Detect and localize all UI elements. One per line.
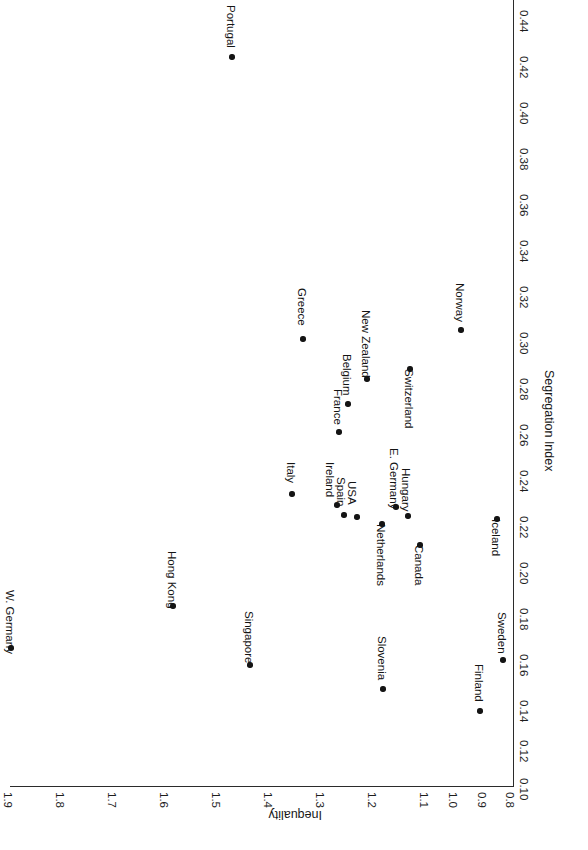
segregation-tick-11: 0.22 (518, 516, 530, 538)
data-point (229, 54, 234, 59)
segregation-tick-17: 0.10 (518, 778, 530, 800)
inequality-tick-7: 1.2 (366, 792, 378, 808)
data-point (289, 491, 294, 496)
data-point-label: Iceland (490, 519, 502, 556)
data-point-label: Singapore (243, 611, 255, 663)
data-point (458, 327, 463, 332)
segregation-tick-3: 0.38 (518, 148, 530, 170)
inequality-tick-0: 1.9 (2, 792, 14, 808)
data-point (300, 336, 305, 341)
segregation-tick-7: 0.30 (518, 332, 530, 354)
data-point-label: Finland (473, 664, 485, 702)
segregation-axis-title: Segregation Index (542, 370, 556, 471)
data-point-label: Hong Kong (166, 551, 178, 609)
inequality-tick-2: 1.7 (106, 792, 118, 808)
data-point-label: Sweden (496, 612, 508, 654)
data-point-label: Italy (285, 462, 297, 483)
data-point-label: Switzerland (403, 369, 415, 428)
data-point-label: Hungary (400, 468, 412, 511)
data-point (380, 686, 385, 691)
inequality-tick-3: 1.6 (158, 792, 170, 808)
inequality-axis-line (10, 786, 514, 787)
data-point (354, 514, 359, 519)
data-point-label: Netherlands (375, 524, 387, 586)
scatter-plot-figure: 1.91.81.71.61.51.41.31.21.11.00.90.8 0.4… (0, 0, 588, 850)
segregation-tick-8: 0.28 (518, 378, 530, 400)
segregation-tick-2: 0.40 (518, 102, 530, 124)
data-point-label: Portugal (225, 5, 237, 48)
inequality-tick-10: 0.9 (476, 792, 488, 808)
segregation-tick-16: 0.12 (518, 740, 530, 762)
inequality-tick-4: 1.5 (210, 792, 222, 808)
data-point (341, 512, 346, 517)
data-point-label: Slovenia (376, 636, 388, 680)
data-point-label: W. Germany (4, 590, 16, 654)
data-point (345, 401, 350, 406)
segregation-tick-12: 0.20 (518, 562, 530, 584)
data-point-label: E. Germany (388, 448, 400, 509)
segregation-tick-14: 0.16 (518, 654, 530, 676)
data-point-label: USA (346, 481, 358, 505)
inequality-tick-5: 1.4 (262, 792, 274, 808)
segregation-tick-9: 0.26 (518, 424, 530, 446)
segregation-tick-0: 0.44 (518, 10, 530, 32)
inequality-tick-8: 1.1 (418, 792, 430, 808)
inequality-tick-6: 1.3 (314, 792, 326, 808)
segregation-tick-6: 0.32 (518, 286, 530, 308)
segregation-tick-13: 0.18 (518, 608, 530, 630)
segregation-tick-15: 0.14 (518, 700, 530, 722)
inequality-tick-11: 0.8 (504, 792, 516, 808)
data-point (500, 657, 505, 662)
data-point (336, 429, 341, 434)
inequality-axis-title: Inequality (268, 808, 322, 822)
data-point (477, 708, 482, 713)
segregation-tick-5: 0.34 (518, 240, 530, 262)
segregation-tick-1: 0.42 (518, 56, 530, 78)
segregation-tick-10: 0.24 (518, 470, 530, 492)
data-point-label: France (332, 389, 344, 425)
data-point-label: Canada (413, 545, 425, 585)
data-point (405, 513, 410, 518)
segregation-axis-line (513, 0, 514, 787)
data-point-label: New Zealand (360, 310, 372, 378)
inequality-tick-9: 1.0 (447, 792, 459, 808)
inequality-tick-1: 1.8 (54, 792, 66, 808)
segregation-tick-4: 0.36 (518, 194, 530, 216)
data-point-label: Greece (296, 288, 308, 326)
data-point-label: Norway (454, 283, 466, 322)
